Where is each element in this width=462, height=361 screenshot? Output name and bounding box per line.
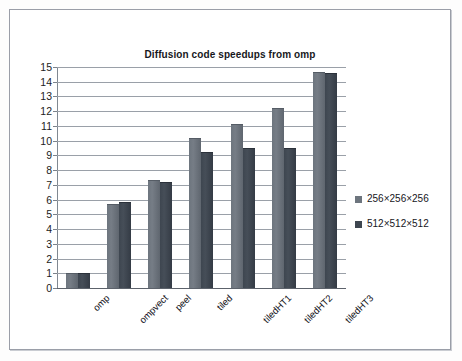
x-axis-label-tiledHT2: tiledHT2 (302, 293, 334, 325)
y-tick-label-15: 15 (40, 62, 52, 73)
y-tick-label-14: 14 (40, 76, 52, 87)
bar-group-omp (57, 67, 98, 288)
y-tick-label-9: 9 (46, 150, 52, 161)
bar-group-tiled (181, 67, 222, 288)
bar-group-ompvect (98, 67, 139, 288)
y-tick-label-3: 3 (46, 239, 52, 250)
legend-swatch-icon (355, 221, 362, 228)
bar-ompvect-512 (119, 202, 131, 288)
legend-item-512[interactable]: 512×512×512 (355, 218, 450, 230)
bar-omp-256 (66, 273, 78, 288)
y-tick-label-7: 7 (46, 180, 52, 191)
bar-tiledHT2-256 (272, 108, 284, 288)
y-tick-label-10: 10 (40, 135, 52, 146)
bar-tiledHT3-256 (313, 72, 325, 288)
bar-tiledHT3-512 (325, 73, 337, 288)
chart-title: Diffusion code speedups from omp (100, 49, 360, 60)
figure-frame: Diffusion code speedups from omp 1514131… (9, 9, 451, 350)
x-axis-label-peel: peel (173, 293, 192, 312)
bar-group-tiledHT1 (222, 67, 263, 288)
bar-group-tiledHT3 (305, 67, 346, 288)
x-axis-label-tiledHT1: tiledHT1 (261, 293, 293, 325)
bar-chart: Diffusion code speedups from omp 1514131… (10, 10, 452, 351)
scanned-page: Diffusion code speedups from omp 1514131… (0, 0, 462, 361)
bar-omp-512 (78, 273, 90, 288)
x-axis-label-tiled: tiled (215, 293, 234, 312)
legend-label: 256×256×256 (367, 194, 429, 204)
y-tick-label-1: 1 (46, 268, 52, 279)
bar-tiled-256 (189, 138, 201, 288)
legend-swatch-icon (355, 196, 362, 203)
y-tick-label-11: 11 (41, 121, 52, 132)
y-tick-label-2: 2 (46, 253, 52, 264)
y-tick-label-4: 4 (46, 224, 52, 235)
bar-group-tiledHT2 (263, 67, 304, 288)
y-tick-label-13: 13 (40, 91, 52, 102)
y-tick-label-6: 6 (46, 194, 52, 205)
bar-tiledHT2-512 (284, 148, 296, 288)
y-tick-label-0: 0 (46, 283, 52, 294)
y-tick-label-8: 8 (46, 165, 52, 176)
legend-item-256[interactable]: 256×256×256 (355, 193, 450, 205)
bar-tiledHT1-256 (231, 124, 243, 288)
bar-ompvect-256 (107, 204, 119, 288)
gridline-0: 0 (57, 288, 346, 289)
legend-label: 512×512×512 (367, 219, 429, 229)
y-tick-mark-0 (53, 288, 57, 289)
plot-area: 1514131211109876543210 (57, 67, 346, 288)
bar-tiled-512 (201, 152, 213, 288)
y-tick-label-5: 5 (46, 209, 52, 220)
y-tick-label-12: 12 (40, 106, 52, 117)
bar-peel-512 (160, 182, 172, 288)
bar-peel-256 (148, 180, 160, 288)
bar-tiledHT1-512 (243, 148, 255, 288)
x-axis-label-tiledHT3: tiledHT3 (344, 293, 376, 325)
x-axis-label-ompvect: ompvect (137, 293, 169, 325)
x-axis-label-omp: omp (91, 293, 111, 313)
chart-legend: 256×256×256512×512×512 (355, 193, 450, 243)
bar-group-peel (140, 67, 181, 288)
